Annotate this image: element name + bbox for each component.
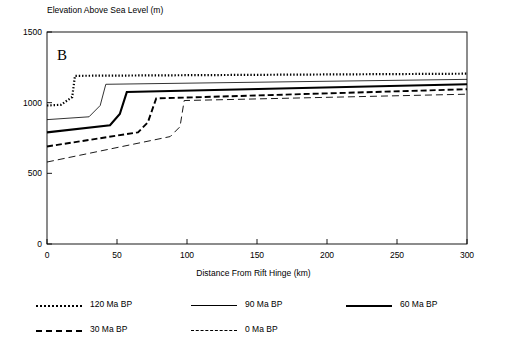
x-tick-label: 0 bbox=[45, 250, 50, 260]
x-tick-label: 300 bbox=[460, 250, 474, 260]
x-tick-label: 100 bbox=[180, 250, 194, 260]
legend-label: 120 Ma BP bbox=[90, 299, 132, 309]
x-axis-title: Distance From Rift Hinge (km) bbox=[0, 268, 507, 278]
legend-swatch bbox=[36, 305, 82, 307]
legend-label: 0 Ma BP bbox=[245, 324, 278, 334]
legend-swatch bbox=[191, 305, 237, 306]
axis-frame bbox=[47, 32, 467, 244]
legend-row: 30 Ma BP0 Ma BP bbox=[36, 321, 496, 341]
legend-label: 90 Ma BP bbox=[245, 299, 282, 309]
x-tick-label: 200 bbox=[320, 250, 334, 260]
legend-swatch bbox=[346, 305, 392, 307]
series-line bbox=[47, 89, 467, 146]
legend-row: 120 Ma BP90 Ma BP60 Ma BP bbox=[36, 296, 496, 316]
y-tick-label: 500 bbox=[28, 168, 42, 178]
legend-label: 60 Ma BP bbox=[400, 299, 437, 309]
chart-legend: 120 Ma BP90 Ma BP60 Ma BP30 Ma BP0 Ma BP bbox=[36, 296, 496, 344]
elevation-chart: Elevation Above Sea Level (m) B 05001000… bbox=[0, 0, 507, 349]
legend-swatch bbox=[36, 330, 82, 332]
legend-label: 30 Ma BP bbox=[90, 324, 127, 334]
legend-swatch bbox=[191, 330, 237, 331]
x-tick-label: 50 bbox=[112, 250, 122, 260]
y-tick-label: 1500 bbox=[23, 27, 42, 37]
series-line bbox=[47, 94, 467, 162]
y-tick-label: 0 bbox=[37, 239, 42, 249]
x-tick-label: 250 bbox=[390, 250, 404, 260]
y-tick-label: 1000 bbox=[23, 98, 42, 108]
x-tick-label: 150 bbox=[250, 250, 264, 260]
plot-area: 050010001500050100150200250300 bbox=[0, 0, 507, 290]
